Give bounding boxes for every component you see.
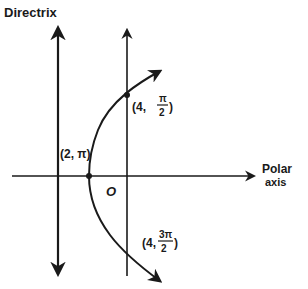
directrix-label: Directrix xyxy=(4,5,58,20)
top-label-numerator: π xyxy=(159,93,167,104)
bottom-label-denominator: 2 xyxy=(161,243,167,254)
bottom-label-suffix: ) xyxy=(174,236,178,250)
parabola-polar-diagram: Directrix Polar axis O (2, π) (4, π 2 ) … xyxy=(0,0,308,289)
top-point-label: (4, π 2 ) xyxy=(132,93,173,118)
top-label-denominator: 2 xyxy=(159,107,165,118)
top-point xyxy=(124,92,130,98)
bottom-label-numerator: 3π xyxy=(159,229,173,240)
pole-label: O xyxy=(106,184,116,199)
bottom-point-label: (4, 3π 2 ) xyxy=(142,229,178,254)
bottom-label-prefix: (4, xyxy=(142,236,156,250)
polar-axis-label-line2: axis xyxy=(265,176,286,188)
polar-axis-label: Polar xyxy=(262,162,292,176)
vertex-point-label: (2, π) xyxy=(60,147,91,161)
top-label-suffix: ) xyxy=(169,100,173,114)
vertex-point xyxy=(86,173,92,179)
top-label-prefix: (4, xyxy=(132,100,146,114)
